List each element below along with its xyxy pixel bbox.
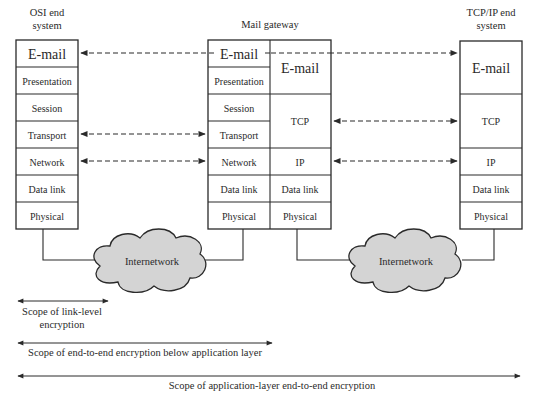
tcpip-layer-physical: Physical xyxy=(474,211,508,222)
osi-layer-network: Network xyxy=(30,157,65,168)
tcpip-title-line1: TCP/IP end xyxy=(467,7,517,18)
end-to-end-below-app-scope-label: Scope of end-to-end encryption below app… xyxy=(28,347,262,358)
gateway-right-ip: IP xyxy=(296,157,305,168)
gateway-left-transport: Transport xyxy=(220,130,259,141)
link-level-scope-line1: Scope of link-level xyxy=(22,306,102,317)
tcpip-layer-email: E-mail xyxy=(472,61,510,76)
cloud-1-label: Internetwork xyxy=(125,256,180,267)
tcpip-layer-datalink: Data link xyxy=(473,184,510,195)
gateway-right-physical: Physical xyxy=(283,211,317,222)
tcpip-layer-tcp: TCP xyxy=(482,116,501,127)
gateway-right-datalink: Data link xyxy=(282,184,319,195)
osi-layer-datalink: Data link xyxy=(29,184,66,195)
internetwork-cloud-1: Internetwork xyxy=(94,229,206,292)
app-layer-scope-label: Scope of application-layer end-to-end en… xyxy=(169,380,376,391)
encryption-scope-diagram: OSI end system E-mail Presentation Sessi… xyxy=(0,0,536,399)
osi-end-system: OSI end system E-mail Presentation Sessi… xyxy=(16,7,78,229)
osi-title-line1: OSI end xyxy=(30,7,65,18)
gateway-right-tcp: TCP xyxy=(291,116,310,127)
osi-layer-email: E-mail xyxy=(28,47,66,62)
osi-layer-transport: Transport xyxy=(28,130,67,141)
osi-layer-presentation: Presentation xyxy=(22,76,71,87)
osi-title-line2: system xyxy=(32,20,61,31)
gateway-title: Mail gateway xyxy=(241,19,299,30)
gateway-left-presentation: Presentation xyxy=(214,76,263,87)
osi-layer-session: Session xyxy=(32,103,63,114)
tcpip-end-system: TCP/IP end system E-mail TCP IP Data lin… xyxy=(460,7,522,229)
gateway-left-session: Session xyxy=(224,103,255,114)
tcpip-title-line2: system xyxy=(476,20,505,31)
gateway-left-physical: Physical xyxy=(222,211,256,222)
cloud-2-label: Internetwork xyxy=(379,256,434,267)
gateway-right-email: E-mail xyxy=(281,61,319,76)
osi-layer-physical: Physical xyxy=(30,211,64,222)
peer-arrows xyxy=(81,53,457,161)
gateway-left-datalink: Data link xyxy=(221,184,258,195)
gateway-left-network: Network xyxy=(222,157,257,168)
link-level-scope-line2: encryption xyxy=(40,319,86,330)
tcpip-layer-ip: IP xyxy=(487,157,496,168)
internetwork-cloud-2: Internetwork xyxy=(349,229,461,292)
gateway-left-email-overlay: E-mail xyxy=(220,47,258,62)
